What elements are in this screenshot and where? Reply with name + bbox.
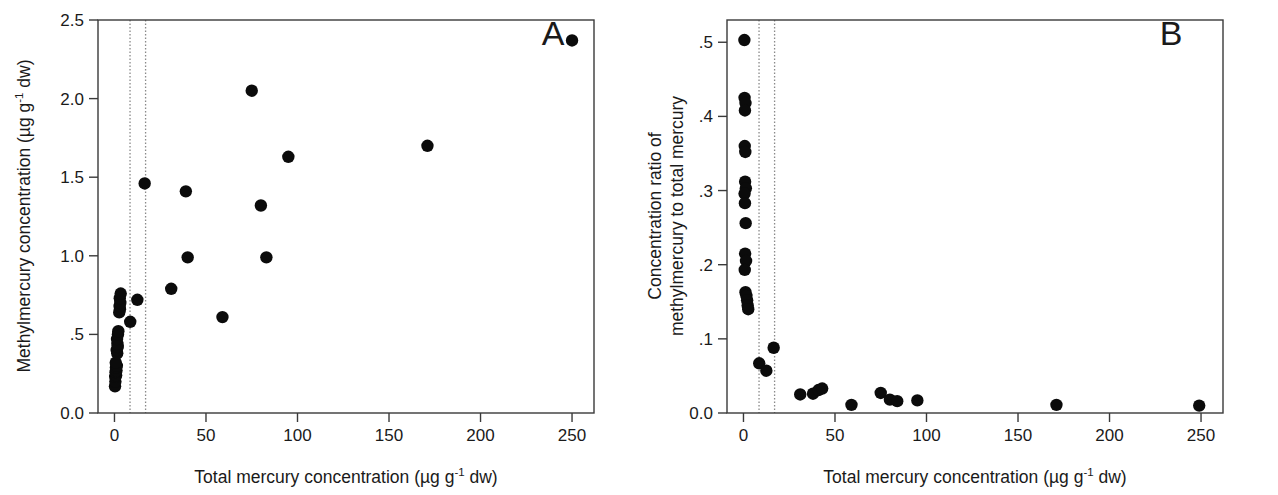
x-tick-label: 200 (466, 426, 494, 445)
y-tick-label: 0.0 (689, 404, 713, 423)
panel-b-y-axis-title-line2: methylmercury to total mercury (667, 96, 687, 336)
panel-a-y-axis-title: Methylmercury concentration (µg g-1 dw) (13, 59, 34, 372)
data-point (165, 283, 177, 295)
x-tick-label: 0 (739, 426, 748, 445)
panel-a-x-axis-title-superscript: -1 (454, 466, 464, 478)
panel-b-x-ticks (743, 413, 1201, 422)
y-tick-label: 2.5 (60, 11, 84, 30)
data-point (138, 177, 150, 189)
data-point (738, 34, 750, 46)
y-tick-label: 2.0 (60, 90, 84, 109)
x-tick-label: 150 (1004, 426, 1032, 445)
x-tick-label: 50 (826, 426, 845, 445)
panel-b-plot: 050100150200250 0.0.1.2.3.4.5 B Total me… (639, 0, 1278, 495)
panel-a-x-ticks (114, 413, 572, 422)
panel-a-y-ticks (89, 20, 98, 413)
x-tick-label: 0 (110, 426, 119, 445)
panel-a-y-axis-title-superscript: -1 (13, 93, 25, 103)
data-point (112, 325, 124, 337)
data-point (1050, 399, 1062, 411)
y-tick-label: 1.0 (60, 247, 84, 266)
data-point (739, 217, 751, 229)
data-point (816, 382, 828, 394)
data-point (131, 294, 143, 306)
data-point (739, 104, 751, 116)
y-tick-label: 0.0 (60, 404, 84, 423)
data-point (124, 316, 136, 328)
data-point (891, 395, 903, 407)
panel-a-y-tick-labels: 0.0.51.01.52.02.5 (60, 11, 84, 423)
panel-b-axes-frame (727, 20, 1223, 413)
panel-a-y-axis-title-tail: dw) (14, 59, 34, 92)
panel-b-reference-lines (759, 20, 775, 413)
panel-b-y-axis-title-line1: Concentration ratio of (645, 132, 665, 299)
data-point (181, 251, 193, 263)
panel-b-x-axis-title-tail: dw) (1094, 467, 1127, 487)
data-point (255, 199, 267, 211)
x-tick-label: 100 (283, 426, 311, 445)
data-point (1193, 399, 1205, 411)
panel-a-axes-frame (98, 20, 594, 413)
panel-a: 050100150200250 0.0.51.01.52.02.5 A Tota… (0, 0, 639, 495)
x-tick-label: 50 (197, 426, 216, 445)
data-point (114, 287, 126, 299)
y-tick-label: .5 (70, 325, 84, 344)
data-point (421, 140, 433, 152)
x-tick-label: 250 (1187, 426, 1215, 445)
panel-a-label: A (542, 14, 565, 52)
data-point (180, 185, 192, 197)
data-point (845, 399, 857, 411)
panel-a-reference-lines (130, 20, 146, 413)
data-point (739, 197, 751, 209)
scatter-figure: 050100150200250 0.0.51.01.52.02.5 A Tota… (0, 0, 1278, 495)
panel-b: 050100150200250 0.0.1.2.3.4.5 B Total me… (639, 0, 1278, 495)
x-tick-label: 250 (558, 426, 586, 445)
x-tick-label: 100 (912, 426, 940, 445)
y-tick-label: .1 (699, 330, 713, 349)
x-tick-label: 200 (1095, 426, 1123, 445)
panel-b-data-points (738, 34, 1205, 412)
panel-b-x-axis-title-main: Total mercury concentration (µg g (823, 467, 1083, 487)
panel-a-x-tick-labels: 050100150200250 (110, 426, 586, 445)
data-point (216, 311, 228, 323)
y-tick-label: 1.5 (60, 168, 84, 187)
panel-a-y-axis-title-main: Methylmercury concentration (µg g (14, 103, 34, 373)
panel-a-x-axis-title-main: Total mercury concentration (µg g (194, 467, 454, 487)
data-point (260, 251, 272, 263)
panel-a-x-axis-title-tail: dw) (465, 467, 498, 487)
y-tick-label: .4 (699, 107, 713, 126)
panel-b-y-tick-labels: 0.0.1.2.3.4.5 (689, 33, 713, 423)
y-tick-label: .2 (699, 256, 713, 275)
y-tick-label: .5 (699, 33, 713, 52)
data-point (767, 342, 779, 354)
panel-a-plot: 050100150200250 0.0.51.01.52.02.5 A Tota… (0, 0, 639, 495)
data-point (739, 264, 751, 276)
data-point (911, 394, 923, 406)
panel-b-x-axis-title-superscript: -1 (1083, 466, 1093, 478)
panel-b-x-tick-labels: 050100150200250 (739, 426, 1215, 445)
data-point (282, 151, 294, 163)
panel-a-x-axis-title: Total mercury concentration (µg g-1 dw) (194, 466, 497, 487)
data-point (742, 303, 754, 315)
data-point (760, 365, 772, 377)
data-point (246, 85, 258, 97)
panel-b-label: B (1160, 14, 1183, 52)
panel-a-data-points (109, 34, 578, 392)
y-tick-label: .3 (699, 182, 713, 201)
panel-b-x-axis-title: Total mercury concentration (µg g-1 dw) (823, 466, 1126, 487)
x-tick-label: 150 (375, 426, 403, 445)
panel-b-y-ticks (718, 42, 727, 413)
data-point (566, 34, 578, 46)
data-point (794, 388, 806, 400)
data-point (739, 146, 751, 158)
